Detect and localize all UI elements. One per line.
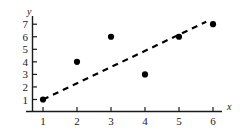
y-tick-label: 5 <box>23 43 29 55</box>
y-tick-label: 1 <box>23 94 29 106</box>
x-tick-label: 4 <box>142 115 148 127</box>
x-tick-label: 6 <box>210 115 216 127</box>
data-point <box>74 59 80 65</box>
y-tick-label: 3 <box>23 68 29 80</box>
data-point <box>176 34 182 40</box>
y-tick-label: 6 <box>23 31 29 43</box>
data-point <box>210 21 216 27</box>
x-tick-label: 5 <box>176 115 182 127</box>
plot-canvas: 1234567 123456 y x <box>0 0 242 132</box>
trend-line-segment <box>43 22 206 100</box>
scatter-plot-figure: 1234567 123456 y x <box>0 0 242 132</box>
data-point <box>108 34 114 40</box>
x-tick-label: 3 <box>108 115 114 127</box>
y-tick-label: 7 <box>23 18 29 30</box>
data-point <box>142 71 148 77</box>
trend-line <box>43 22 206 100</box>
x-axis-label: x <box>226 101 232 112</box>
y-axis-tick-labels: 1234567 <box>23 18 29 105</box>
x-axis-tick-labels: 123456 <box>40 115 216 127</box>
x-tick-label: 2 <box>74 115 80 127</box>
data-point-markers <box>40 21 216 103</box>
y-axis-label: y <box>26 6 32 17</box>
data-point <box>40 96 46 102</box>
x-tick-label: 1 <box>40 115 46 127</box>
y-tick-label: 2 <box>23 81 29 93</box>
y-tick-label: 4 <box>23 56 29 68</box>
